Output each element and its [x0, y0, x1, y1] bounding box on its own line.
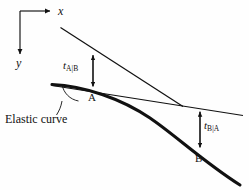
- point-b-label: B: [195, 153, 202, 164]
- t-ba-subscript: B|A: [207, 124, 219, 133]
- t-ba-label: tB|A: [204, 120, 219, 132]
- figure-drawing: [0, 0, 249, 190]
- tangent-at-a-line: [52, 86, 243, 116]
- tangent-at-b-line: [61, 28, 184, 107]
- elastic-curve-label: Elastic curve: [5, 113, 67, 125]
- t-ab-subscript: A|B: [66, 64, 78, 73]
- x-axis-label: x: [58, 5, 63, 17]
- t-ab-label: tA|B: [63, 60, 78, 72]
- elastic-curve-figure: x y tA|B tB|A A B Elastic curve: [0, 0, 249, 190]
- y-axis-label: y: [16, 57, 21, 69]
- elastic-curve-path: [52, 85, 240, 186]
- point-a-label: A: [88, 92, 96, 103]
- coordinate-axes: [20, 11, 50, 54]
